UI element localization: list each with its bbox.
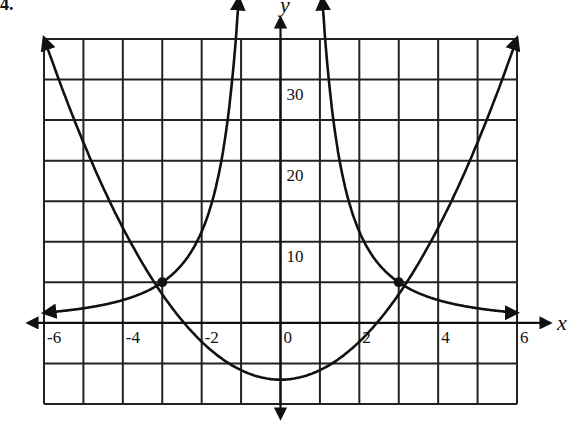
- x-tick-label: 0: [284, 328, 293, 347]
- y-tick-label: 10: [287, 247, 304, 266]
- x-tick-label: -4: [126, 328, 141, 347]
- x-tick-label: 6: [520, 328, 529, 347]
- reciprocal-curve-right: [322, 0, 517, 313]
- axes: [28, 18, 550, 418]
- y-axis-label: y: [278, 0, 290, 17]
- y-tick-label: 30: [287, 85, 304, 104]
- graph: -6-4-20246102030 x y: [0, 0, 583, 430]
- y-tick-label: 20: [287, 166, 304, 185]
- x-axis-label: x: [556, 310, 567, 335]
- x-tick-label: -6: [47, 328, 61, 347]
- intersection-point: [394, 277, 404, 287]
- x-tick-label: 4: [441, 328, 450, 347]
- tick-labels: -6-4-20246102030: [47, 85, 529, 347]
- intersection-point: [157, 277, 167, 287]
- reciprocal-curve-left: [44, 0, 239, 313]
- x-tick-label: -2: [205, 328, 219, 347]
